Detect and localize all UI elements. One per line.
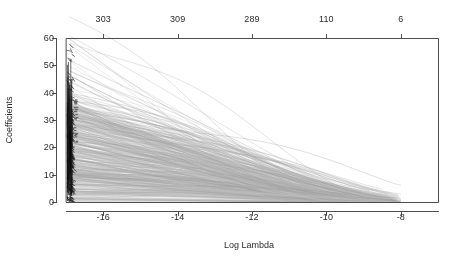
y-axis-tick-label: 40 — [38, 88, 54, 98]
x-axis-tick-label: -14 — [171, 212, 184, 222]
x-axis-tick-label: -12 — [245, 212, 258, 222]
x-axis-tick-label: -16 — [97, 212, 110, 222]
y-axis-tick-label: 50 — [38, 60, 54, 70]
y-axis-tick-label: 20 — [38, 142, 54, 152]
x-axis-title: Log Lambda — [224, 240, 274, 250]
top-axis-tick-label: 6 — [398, 14, 403, 24]
y-axis-tick-label: 0 — [38, 197, 54, 207]
top-axis-tick-label: 110 — [319, 14, 334, 24]
top-axis-tick-label: 303 — [96, 14, 111, 24]
top-axis-tick-label: 309 — [170, 14, 185, 24]
x-axis-tick-label: -10 — [320, 212, 333, 222]
y-axis-title: Coefficients — [4, 97, 14, 144]
y-axis-tick-label: 10 — [38, 170, 54, 180]
y-axis-tick-label: 30 — [38, 115, 54, 125]
x-axis-tick-label: -8 — [397, 212, 405, 222]
y-axis-tick-label: 60 — [38, 33, 54, 43]
coefficient-path-figure: Coefficients Log Lambda 3033092891106 -1… — [0, 0, 462, 261]
top-axis-tick-label: 289 — [244, 14, 259, 24]
regularization-path-plot — [0, 0, 462, 261]
